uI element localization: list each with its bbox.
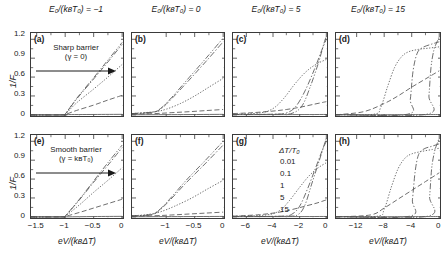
series-0.1 xyxy=(233,102,326,114)
y-tick-row1-1: 0.3 xyxy=(1,191,25,200)
x-ticks-panel-e: −1.5−1−0.50 xyxy=(30,221,124,233)
x-axis-label-col-1: eV/(kʙΔT) xyxy=(131,236,225,246)
annotation-sharp-barrier: Sharp barrier (γ = 0) xyxy=(36,44,116,62)
y-tick-row1-0: 0 xyxy=(1,211,25,220)
column-title-0: E₀/(kʙT₀) = −1 xyxy=(28,4,124,14)
x-tick-label: −0.5 xyxy=(79,221,107,230)
y-tick-row0-4: 1.2 xyxy=(1,29,25,38)
series-0.1 xyxy=(132,110,223,115)
arrow-smooth-barrier xyxy=(36,168,118,178)
x-tick-label: −4 xyxy=(258,221,286,230)
x-tick-label: 0 xyxy=(424,221,446,230)
annotation-smooth-barrier: Smooth barrier (γ = kʙT₀) xyxy=(36,146,116,164)
panel-h: (h) xyxy=(335,134,441,219)
legend-item-0: 0.01 xyxy=(245,157,311,168)
y-tick-row1-2: 0.6 xyxy=(1,171,25,180)
series-1 xyxy=(132,78,223,113)
legend-swatch-2 xyxy=(245,184,276,185)
panel-f-plot xyxy=(132,135,225,219)
x-ticks-panel-f: −1−0.50 xyxy=(131,221,225,233)
column-title-2: E₀/(kʙT₀) = 5 xyxy=(228,4,324,14)
legend-label-3: 5 xyxy=(280,193,284,202)
x-axis-label-col-2: eV/(kʙΔT) xyxy=(232,236,328,246)
x-ticks-panel-h: −12−8−40 xyxy=(335,221,441,233)
series-0.1 xyxy=(31,199,122,217)
series-0.1 xyxy=(336,71,439,115)
legend-item-2: 1 xyxy=(245,181,311,192)
series-5 xyxy=(336,144,439,218)
series-15 xyxy=(132,38,223,114)
y-tick-row0-1: 0.3 xyxy=(1,89,25,98)
column-title-1: E₀/(kʙT₀) = 0 xyxy=(128,4,224,14)
panel-d-plot xyxy=(336,33,441,117)
series-1 xyxy=(336,148,439,217)
figure-root: E₀/(kʙT₀) = −1 E₀/(kʙT₀) = 0 E₀/(kʙT₀) =… xyxy=(0,0,446,260)
x-tick-label: −1.5 xyxy=(22,221,50,230)
legend-item-1: 0.1 xyxy=(245,169,311,180)
legend-swatch-3 xyxy=(245,196,276,197)
y-tick-row0-2: 0.6 xyxy=(1,69,25,78)
arrow-sharp-barrier xyxy=(36,66,118,76)
legend-item-4: 15 xyxy=(245,205,311,216)
panel-b: (b) xyxy=(131,32,225,117)
legend-label-2: 1 xyxy=(280,181,284,190)
y-tick-row0-3: 0.9 xyxy=(1,49,25,58)
x-tick-label: −6 xyxy=(231,221,259,230)
x-tick-label: −0.5 xyxy=(180,221,208,230)
panel-d: (d) xyxy=(335,32,441,117)
x-tick-label: −1 xyxy=(50,221,78,230)
x-tick-label: −4 xyxy=(397,221,425,230)
legend-label-0: 0.01 xyxy=(280,157,296,166)
series-5 xyxy=(132,42,223,114)
legend-swatch-4 xyxy=(245,208,276,209)
panel-f: (f) xyxy=(131,134,225,219)
panel-b-plot xyxy=(132,33,225,117)
series-0.1 xyxy=(336,173,439,217)
annotation-sharp-line2: (γ = 0) xyxy=(36,53,116,62)
x-axis-label-col-0: eV/(kʙΔT) xyxy=(30,236,124,246)
legend-label-4: 15 xyxy=(280,205,289,214)
series-1 xyxy=(336,47,439,115)
legend-label-1: 0.1 xyxy=(280,169,291,178)
x-tick-label: −12 xyxy=(342,221,370,230)
series-1 xyxy=(233,59,326,114)
x-tick-label: −8 xyxy=(369,221,397,230)
x-ticks-panel-g: −6−4−20 xyxy=(232,221,328,233)
panel-c: (c) xyxy=(232,32,328,117)
x-tick-label: −2 xyxy=(285,221,313,230)
legend-swatch-1 xyxy=(245,172,276,173)
y-tick-row1-4: 1.2 xyxy=(1,131,25,140)
series-5 xyxy=(336,42,439,116)
column-title-3: E₀/(kʙT₀) = 15 xyxy=(330,4,426,14)
panel-h-plot xyxy=(336,135,441,219)
legend-title: ΔT/T₀ xyxy=(279,146,300,155)
panel-c-plot xyxy=(233,33,328,117)
x-tick-label: −1 xyxy=(151,221,179,230)
legend-swatch-0 xyxy=(245,160,276,161)
legend: ΔT/T₀ 0.01 0.1 1 5 xyxy=(245,146,315,208)
series-1 xyxy=(132,180,223,216)
legend-item-3: 5 xyxy=(245,193,311,204)
x-axis-label-col-3: eV/(kʙΔT) xyxy=(335,236,441,246)
y-tick-row1-3: 0.9 xyxy=(1,151,25,160)
annotation-smooth-line2: (γ = kʙT₀) xyxy=(36,155,116,164)
y-tick-row0-0: 0 xyxy=(1,109,25,118)
